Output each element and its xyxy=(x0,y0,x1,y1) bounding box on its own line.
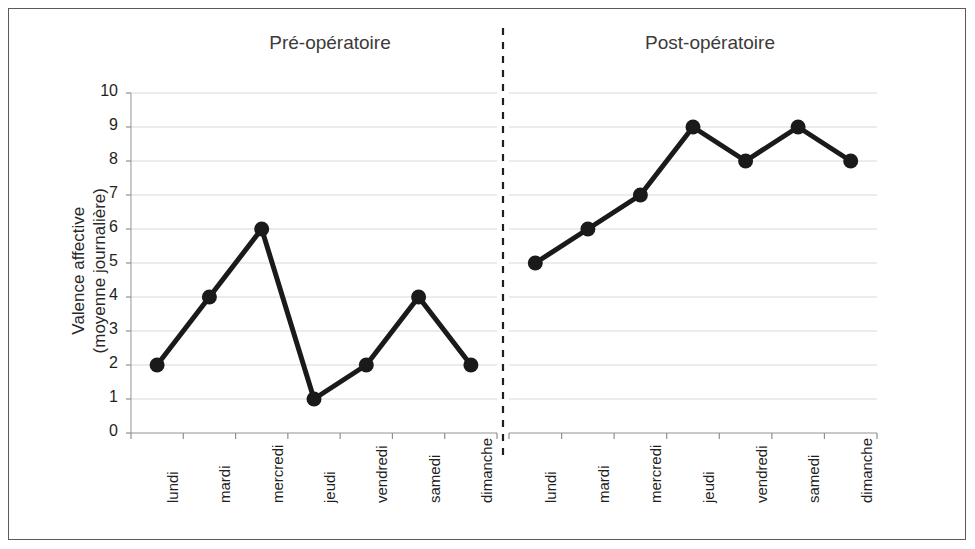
x-tick-label-samedi: samedi xyxy=(426,455,443,503)
y-tick-label: 9 xyxy=(84,116,118,134)
data-point xyxy=(202,290,217,305)
x-tick-label-dimanche: dimanche xyxy=(858,438,875,503)
x-tick-label-vendredi: vendredi xyxy=(753,445,770,503)
y-tick-label: 3 xyxy=(84,320,118,338)
data-point xyxy=(359,358,374,373)
data-point xyxy=(254,222,269,237)
x-tick-label-lundi: lundi xyxy=(542,471,559,503)
data-point xyxy=(843,154,858,169)
y-tick-label: 6 xyxy=(84,218,118,236)
data-point xyxy=(633,188,648,203)
x-tick-label-mercredi: mercredi xyxy=(647,445,664,503)
x-tick-label-mercredi: mercredi xyxy=(269,445,286,503)
y-tick-marks-group xyxy=(126,93,131,433)
data-point xyxy=(686,120,701,135)
data-point xyxy=(411,290,426,305)
y-tick-label: 2 xyxy=(84,354,118,372)
series-line-pré-opératoire xyxy=(157,229,471,399)
x-tick-label-mardi: mardi xyxy=(595,465,612,503)
data-point xyxy=(150,358,165,373)
data-point xyxy=(580,222,595,237)
y-tick-label: 0 xyxy=(84,422,118,440)
y-tick-label: 4 xyxy=(84,286,118,304)
x-tick-label-jeudi: jeudi xyxy=(321,471,338,503)
x-tick-label-dimanche: dimanche xyxy=(478,438,495,503)
x-tick-label-mardi: mardi xyxy=(216,465,233,503)
data-point xyxy=(463,358,478,373)
y-tick-label: 10 xyxy=(84,82,118,100)
data-point xyxy=(791,120,806,135)
figure-canvas: Pré-opératoire Post-opératoire Valence a… xyxy=(0,0,975,549)
y-tick-label: 7 xyxy=(84,184,118,202)
y-tick-label: 5 xyxy=(84,252,118,270)
y-tick-label: 1 xyxy=(84,388,118,406)
x-tick-label-lundi: lundi xyxy=(164,471,181,503)
data-point xyxy=(738,154,753,169)
data-point xyxy=(307,392,322,407)
x-tick-label-samedi: samedi xyxy=(805,455,822,503)
x-tick-label-jeudi: jeudi xyxy=(700,471,717,503)
y-tick-label: 8 xyxy=(84,150,118,168)
x-tick-label-vendredi: vendredi xyxy=(373,445,390,503)
data-point xyxy=(528,256,543,271)
